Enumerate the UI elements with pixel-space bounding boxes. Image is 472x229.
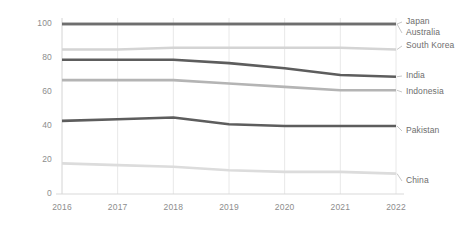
series-label-india: India (406, 70, 425, 80)
leader-line-india (397, 76, 402, 77)
axis-lines (56, 18, 404, 194)
leader-lines (397, 22, 402, 181)
y-tick-40: 40 (26, 120, 52, 130)
leader-line-pakistan (397, 126, 402, 131)
y-tick-80: 80 (26, 52, 52, 62)
chart-canvas (0, 0, 472, 229)
x-tick-2019: 2019 (209, 202, 249, 212)
x-tick-2022: 2022 (376, 202, 416, 212)
y-tick-100: 100 (26, 18, 52, 28)
leader-line-australia (397, 24, 402, 33)
gridlines (62, 18, 396, 194)
series-label-pakistan: Pakistan (406, 125, 439, 135)
y-tick-20: 20 (26, 154, 52, 164)
leader-line-indonesia (397, 90, 402, 92)
leader-line-japan (397, 22, 402, 24)
y-tick-0: 0 (26, 188, 52, 198)
x-tick-2017: 2017 (98, 202, 138, 212)
series-label-japan: Japan (406, 16, 430, 26)
leader-line-south-korea (397, 46, 402, 50)
line-chart: 020406080100 201620172018201920202021202… (0, 0, 472, 229)
x-tick-2020: 2020 (265, 202, 305, 212)
leader-line-china (397, 174, 402, 181)
x-tick-2018: 2018 (153, 202, 193, 212)
y-tick-60: 60 (26, 86, 52, 96)
x-tick-2016: 2016 (42, 202, 82, 212)
series-label-china: China (406, 175, 429, 185)
x-tick-2021: 2021 (320, 202, 360, 212)
series-label-south-korea: South Korea (406, 40, 454, 50)
series-label-indonesia: Indonesia (406, 86, 444, 96)
series-label-australia: Australia (406, 27, 440, 37)
